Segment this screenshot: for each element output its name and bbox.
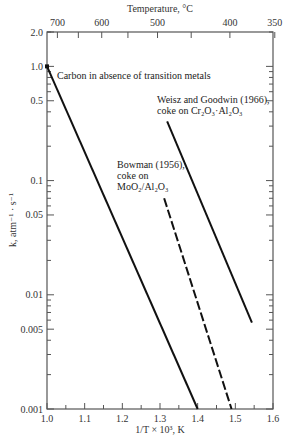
arrhenius-chart: 1.01.11.21.31.41.51.67006005004003502.01… [0, 0, 288, 439]
plot-axes [47, 32, 273, 409]
y-tick-label: 0.5 [31, 95, 44, 106]
series-label-2: MoO₂/Al₂O₃ [117, 181, 169, 192]
x-tick-label: 1.1 [78, 413, 91, 424]
top-tick-label: 350 [267, 17, 282, 28]
top-tick-label: 600 [94, 17, 109, 28]
x-tick-label: 1.5 [229, 413, 242, 424]
y-tick-label: 2.0 [31, 27, 44, 38]
x-tick-label: 1.3 [154, 413, 167, 424]
y-tick-label: 0.001 [21, 404, 44, 415]
x-tick-label: 1.2 [116, 413, 129, 424]
data-series [45, 64, 252, 409]
series-label-1: coke on Cr₂O₃·Al₂O₃ [157, 105, 243, 116]
series-label-0: Carbon in absence of transition metals [57, 70, 211, 81]
x-tick-label: 1.6 [267, 413, 280, 424]
plot-frame [47, 32, 273, 409]
annotations: Carbon in absence of transition metalsWe… [57, 70, 270, 192]
start-marker [45, 64, 49, 68]
x-tick-label: 1.0 [41, 413, 54, 424]
series-label-2: coke on [117, 170, 148, 181]
y-tick-label: 1.0 [31, 61, 44, 72]
x-tick-label: 1.4 [191, 413, 204, 424]
series-line-1 [167, 121, 252, 322]
y-tick-label: 0.1 [31, 175, 44, 186]
series-line-0 [47, 66, 198, 409]
y-tick-label: 0.01 [26, 289, 44, 300]
y-axis-title: k, atm⁻¹ · s⁻¹ [7, 193, 18, 247]
top-tick-label: 700 [50, 17, 65, 28]
y-tick-label: 0.05 [26, 209, 44, 220]
x-axis-title: 1/T × 10³, K [135, 424, 185, 435]
series-line-2 [164, 198, 231, 409]
top-axis-title: Temperature, °C [127, 3, 193, 14]
top-tick-label: 500 [150, 17, 165, 28]
top-tick-label: 400 [222, 17, 237, 28]
y-tick-label: 0.005 [21, 324, 44, 335]
